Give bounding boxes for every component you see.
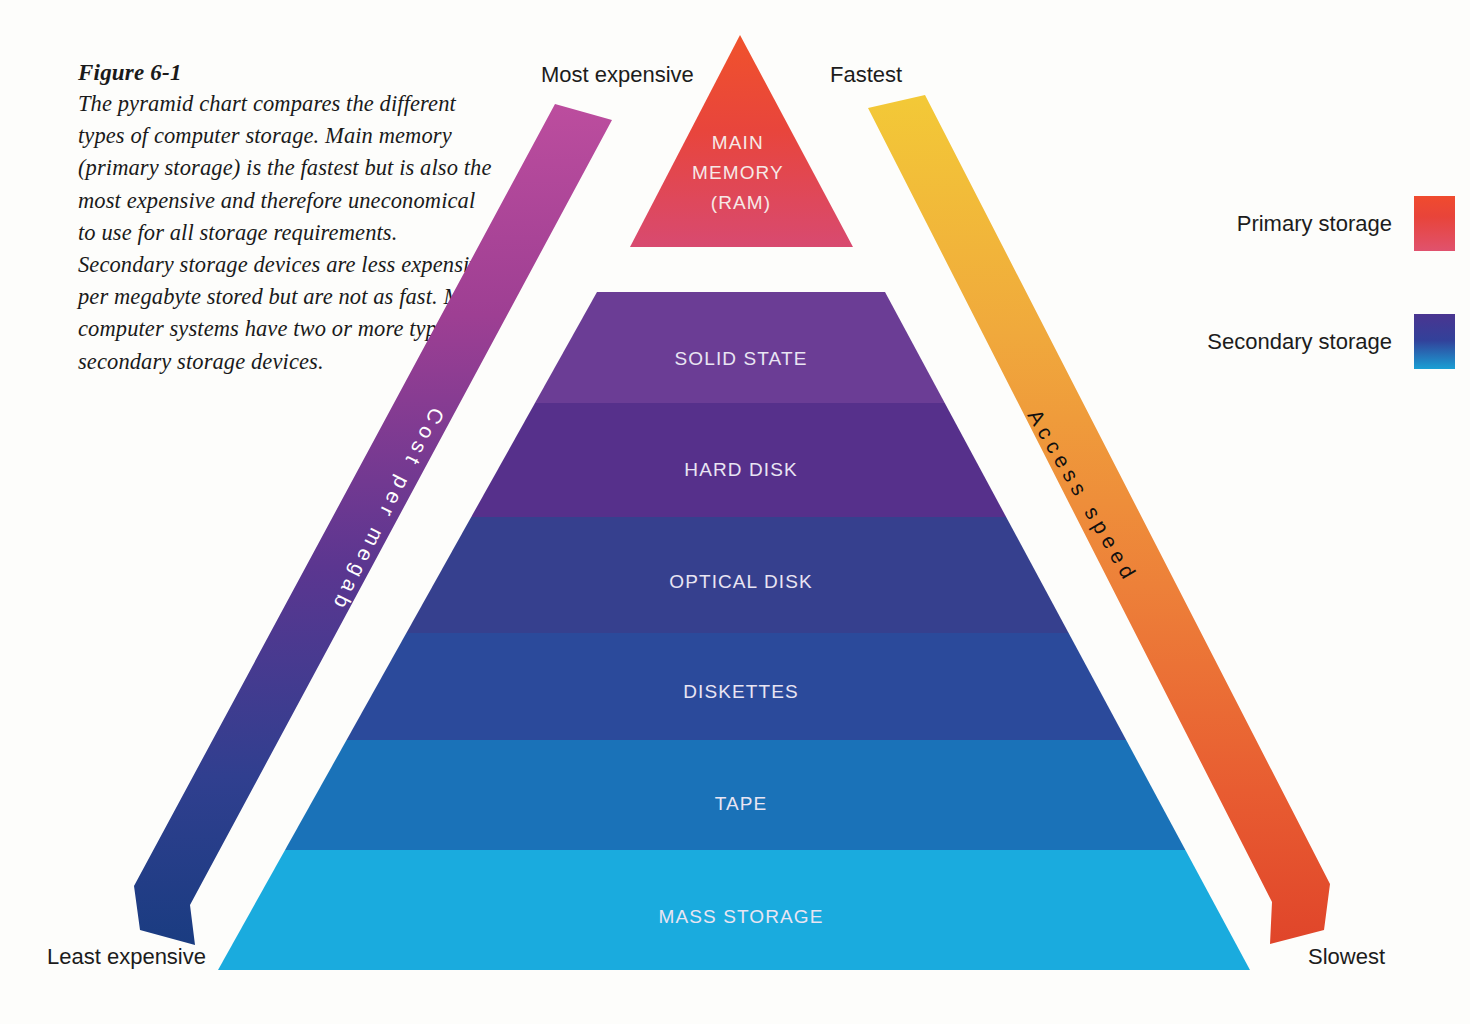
legend-swatch-secondary-storage bbox=[1414, 314, 1455, 369]
tier-diskettes-label: DISKETTES bbox=[683, 681, 798, 702]
label-least-expensive: Least expensive bbox=[47, 944, 206, 970]
tier-optical-disk-label: OPTICAL DISK bbox=[669, 571, 812, 592]
figure-page: Figure 6-1 The pyramid chart compares th… bbox=[0, 0, 1470, 1024]
label-most-expensive: Most expensive bbox=[541, 62, 694, 88]
cost-arrow-label: Cost per megabyte bbox=[0, 0, 449, 617]
legend-item-secondary-storage[interactable]: Secondary storage bbox=[1155, 314, 1455, 369]
label-slowest: Slowest bbox=[1308, 944, 1385, 970]
legend-item-primary-storage[interactable]: Primary storage bbox=[1155, 196, 1455, 251]
legend: Primary storage Secondary storage bbox=[1155, 196, 1455, 432]
label-fastest: Fastest bbox=[830, 62, 902, 88]
tier-hard-disk-label: HARD DISK bbox=[684, 459, 797, 480]
pyramid-chart: Cost per megabyte Access speed MAIN MEMO… bbox=[0, 0, 1470, 1024]
tier-solid-state-label: SOLID STATE bbox=[675, 348, 808, 369]
legend-swatch-primary-storage bbox=[1414, 196, 1455, 251]
tier-mass-storage-label: MASS STORAGE bbox=[659, 906, 824, 927]
legend-label-primary-storage: Primary storage bbox=[1237, 211, 1392, 237]
tier-tape-label: TAPE bbox=[715, 793, 768, 814]
legend-label-secondary-storage: Secondary storage bbox=[1207, 329, 1392, 355]
